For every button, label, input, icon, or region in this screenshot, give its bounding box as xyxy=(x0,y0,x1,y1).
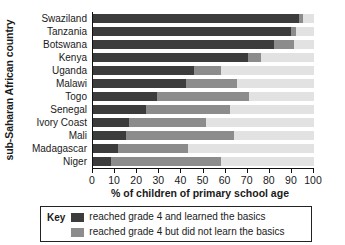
category-label: Swaziland xyxy=(16,12,90,25)
bar-segment xyxy=(93,92,157,101)
category-label: Niger xyxy=(16,155,90,168)
bar-segment xyxy=(303,14,314,23)
legend-swatch xyxy=(71,213,84,222)
bar-track xyxy=(93,66,314,75)
category-label: Mali xyxy=(16,129,90,142)
x-axis-tick-label: 0 xyxy=(89,173,95,187)
x-axis-tick-label: 20 xyxy=(130,173,142,187)
bar-segment xyxy=(188,144,314,153)
bar-track xyxy=(93,92,314,101)
x-axis-tick-label: 80 xyxy=(263,173,275,187)
legend-label: reached grade 4 and learned the basics xyxy=(89,211,265,223)
bar-segment xyxy=(248,53,261,62)
x-axis-tick-labels: 0102030405060708090100 xyxy=(92,173,313,187)
bar-track xyxy=(93,118,314,127)
legend-item: reached grade 4 but did not learn the ba… xyxy=(71,225,284,239)
y-axis-title-text: sub-Saharan African country xyxy=(3,19,15,160)
x-axis-tick-label: 30 xyxy=(152,173,164,187)
plot-area xyxy=(92,12,314,168)
bar-row xyxy=(93,155,314,168)
bar-segment xyxy=(237,79,314,88)
bar-row xyxy=(93,25,314,38)
bar-track xyxy=(93,157,314,166)
bar-segment xyxy=(118,144,188,153)
bar-segment xyxy=(126,131,234,140)
legend-label: reached grade 4 but did not learn the ba… xyxy=(89,226,284,238)
bar-track xyxy=(93,79,314,88)
bar-row xyxy=(93,142,314,155)
legend: Key reached grade 4 and learned the basi… xyxy=(40,206,312,242)
x-axis-tick-label: 50 xyxy=(197,173,209,187)
bar-segment xyxy=(93,105,146,114)
category-label: Uganda xyxy=(16,64,90,77)
bar-segment xyxy=(274,40,294,49)
legend-item: reached grade 4 and learned the basics xyxy=(71,210,284,224)
bar-row xyxy=(93,77,314,90)
category-label: Ivory Coast xyxy=(16,116,90,129)
x-axis-title: % of children of primary school age xyxy=(60,187,340,199)
bar-segment xyxy=(93,157,111,166)
bar-series-group xyxy=(93,12,314,168)
x-axis-tick-label: 40 xyxy=(175,173,187,187)
bar-segment xyxy=(234,131,314,140)
bar-row xyxy=(93,38,314,51)
bar-segment xyxy=(221,66,314,75)
legend-swatch xyxy=(71,228,84,237)
bar-segment xyxy=(221,157,314,166)
bar-row xyxy=(93,64,314,77)
bar-segment xyxy=(249,92,314,101)
bar-track xyxy=(93,105,314,114)
bar-row xyxy=(93,129,314,142)
bar-segment xyxy=(93,27,291,36)
bar-segment xyxy=(186,79,237,88)
bar-segment xyxy=(93,53,248,62)
bar-segment xyxy=(296,27,314,36)
bar-row xyxy=(93,116,314,129)
bar-track xyxy=(93,53,314,62)
x-axis-tick-label: 60 xyxy=(219,173,231,187)
bar-segment xyxy=(206,118,314,127)
category-label: Tanzania xyxy=(16,25,90,38)
bar-track xyxy=(93,131,314,140)
bar-segment xyxy=(93,66,194,75)
bar-segment xyxy=(230,105,314,114)
bar-segment xyxy=(157,92,249,101)
bar-segment xyxy=(93,40,274,49)
bar-segment xyxy=(93,131,126,140)
bar-segment xyxy=(261,53,314,62)
category-label: Madagascar xyxy=(16,142,90,155)
x-axis-tick-label: 10 xyxy=(108,173,120,187)
bar-track xyxy=(93,144,314,153)
bar-segment xyxy=(129,118,205,127)
bar-row xyxy=(93,12,314,25)
category-label: Malawi xyxy=(16,77,90,90)
bar-segment xyxy=(146,105,230,114)
bar-row xyxy=(93,51,314,64)
category-label: Kenya xyxy=(16,51,90,64)
bar-row xyxy=(93,103,314,116)
category-label: Botswana xyxy=(16,38,90,51)
bar-track xyxy=(93,14,314,23)
chart-figure: sub-Saharan African country SwazilandTan… xyxy=(0,0,345,245)
category-axis-labels: SwazilandTanzaniaBotswanaKenyaUgandaMala… xyxy=(16,12,90,168)
bar-row xyxy=(93,90,314,103)
legend-title: Key xyxy=(47,210,65,225)
x-axis-tick-label: 70 xyxy=(241,173,253,187)
legend-items: reached grade 4 and learned the basicsre… xyxy=(71,210,284,239)
category-label: Togo xyxy=(16,90,90,103)
bar-track xyxy=(93,27,314,36)
x-axis-tick-label: 100 xyxy=(304,173,322,187)
bar-segment xyxy=(294,40,314,49)
category-label: Senegal xyxy=(16,103,90,116)
bar-track xyxy=(93,40,314,49)
bar-segment xyxy=(111,157,222,166)
x-axis-tick-label: 90 xyxy=(285,173,297,187)
bar-segment xyxy=(93,144,118,153)
bar-segment xyxy=(93,79,186,88)
bar-segment xyxy=(93,14,299,23)
bar-segment xyxy=(194,66,222,75)
bar-segment xyxy=(93,118,129,127)
